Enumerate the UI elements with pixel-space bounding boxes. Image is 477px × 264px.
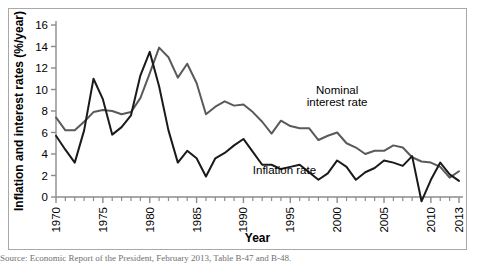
chart-figure-panel: 0246810121416197019751980198519901995200… [8,8,467,250]
inflation-interest-line-chart: 0246810121416197019751980198519901995200… [9,9,466,249]
inflation-rate-line [56,52,459,201]
x-tick-label: 1970 [50,207,62,233]
nominal-interest-rate-label-2: interest rate [307,96,368,108]
y-tick-label: 10 [35,84,48,96]
y-tick-label: 6 [42,127,48,139]
y-axis-title: Inflation and interest rates (%/year) [12,11,26,211]
y-tick-label: 2 [42,170,48,182]
x-tick-label: 2013 [453,207,465,233]
x-tick-label: 2005 [378,207,390,233]
y-tick-label: 8 [42,105,48,117]
figure-source-caption: Source: Economic Report of the President… [0,252,477,264]
inflation-rate-label: Inflation rate [253,164,316,176]
y-tick-group: 0246810121416 [35,19,56,203]
x-tick-label: 1995 [284,207,296,233]
x-tick-label: 1990 [237,207,249,233]
x-tick-label: 1985 [191,207,203,233]
x-tick-label: 2000 [331,207,343,233]
y-tick-label: 14 [35,41,48,53]
nominal-interest-rate-label: Nominal [316,84,358,96]
x-axis-title: Year [245,231,271,245]
x-tick-group: 1970197519801985199019952000200520102013 [50,197,465,233]
y-tick-label: 16 [35,19,48,31]
y-tick-label: 12 [35,62,48,74]
y-tick-label: 0 [42,191,48,203]
x-tick-label: 2010 [425,207,437,233]
x-tick-label: 1980 [144,207,156,233]
x-tick-label: 1975 [97,207,109,233]
y-tick-label: 4 [42,148,49,160]
